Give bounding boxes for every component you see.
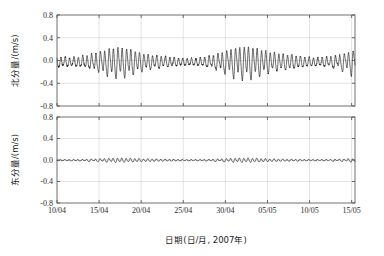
x-axis-title: 日期(日/月, 2007年) (165, 235, 247, 245)
x-tick-label: 10/04 (48, 206, 66, 215)
x-tick-label: 15/04 (90, 206, 108, 215)
y-tick-label: 0.8 (43, 113, 53, 122)
two-panel-tidal-velocity-chart: 0.80.40.0-0.4-0.8北分量/(m/s) 0.80.40.0-0.4… (0, 0, 384, 256)
x-tick-label: 30/04 (216, 206, 234, 215)
y-tick-label: -0.4 (40, 79, 53, 88)
chart-panel-east-component: 0.80.40.0-0.4-0.810/0415/0420/0425/0430/… (10, 113, 361, 215)
chart-panel-north-component: 0.80.40.0-0.4-0.8北分量/(m/s) (10, 11, 355, 111)
y-tick-label: 0.0 (43, 156, 53, 165)
y-axis-title-bottom: 东分量/(m/s) (10, 134, 20, 186)
x-tick-label: 10/05 (300, 206, 318, 215)
y-tick-label: -0.8 (40, 102, 53, 111)
y-tick-label: 0.4 (43, 134, 53, 143)
y-tick-label: 0.8 (43, 11, 53, 20)
y-tick-label: 0.0 (43, 56, 53, 65)
x-tick-label: 20/04 (132, 206, 150, 215)
y-axis-title-top: 北分量/(m/s) (10, 34, 20, 86)
x-tick-label: 05/05 (258, 206, 276, 215)
x-tick-label: 15/05 (343, 206, 361, 215)
y-tick-label: 0.4 (43, 34, 53, 43)
x-tick-label: 25/04 (174, 206, 192, 215)
data-trace-top (57, 47, 355, 81)
y-tick-label: -0.4 (40, 177, 53, 186)
